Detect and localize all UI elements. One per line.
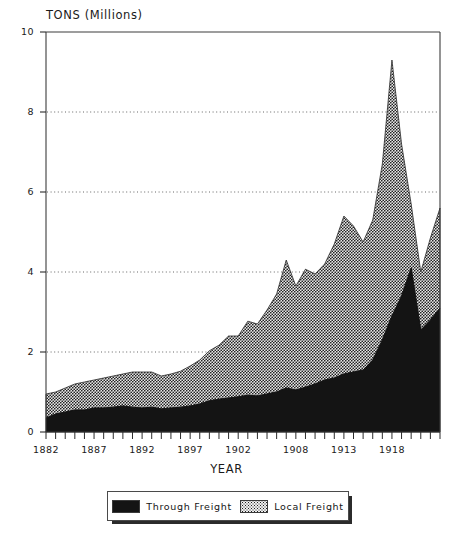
y-axis-tick-label: 6 — [6, 186, 34, 197]
solid-black-swatch-icon — [112, 500, 140, 513]
y-axis-tick-label: 2 — [6, 346, 34, 357]
legend-label-through-freight: Through Freight — [146, 501, 232, 512]
x-axis-title: YEAR — [0, 462, 453, 476]
x-axis-tick-label: 1887 — [74, 444, 114, 455]
x-axis-tick-label: 1913 — [324, 444, 364, 455]
x-axis-tick-label: 1882 — [26, 444, 66, 455]
x-axis-tick-label: 1892 — [122, 444, 162, 455]
stacked-areas — [46, 60, 440, 432]
y-axis-tick-marks — [40, 32, 46, 432]
x-axis-tick-label: 1918 — [372, 444, 412, 455]
x-axis-tick-marks — [46, 432, 440, 439]
y-axis-tick-label: 8 — [6, 106, 34, 117]
y-axis-tick-label: 10 — [6, 26, 34, 37]
legend-item-through-freight: Through Freight — [112, 500, 232, 513]
freight-tonnage-area-chart: TONS (Millions) 0246810 1882188718921897… — [0, 0, 453, 535]
y-axis-tick-label: 0 — [6, 426, 34, 437]
x-axis-tick-label: 1908 — [276, 444, 316, 455]
chart-legend: Through Freight Local Freight — [107, 491, 349, 521]
x-axis-tick-label: 1897 — [170, 444, 210, 455]
x-axis-tick-label: 1902 — [218, 444, 258, 455]
dotted-gray-swatch-icon — [240, 500, 268, 513]
legend-label-local-freight: Local Freight — [274, 501, 343, 512]
y-axis-tick-label: 4 — [6, 266, 34, 277]
legend-item-local-freight: Local Freight — [240, 500, 343, 513]
